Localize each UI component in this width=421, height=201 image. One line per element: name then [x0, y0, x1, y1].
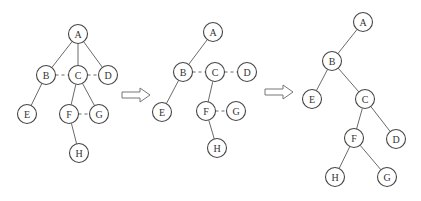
original-tree-edge-C-G — [83, 83, 95, 105]
node-label: G — [383, 172, 390, 183]
original-tree-edge-F-H — [71, 123, 76, 144]
binary-tree-node-A: A — [354, 13, 373, 32]
node-label: E — [159, 107, 165, 118]
binary-tree-edge-F-H — [339, 147, 350, 169]
binary-tree-node-E: E — [303, 90, 322, 109]
node-label: E — [24, 109, 30, 120]
node-label: C — [362, 94, 369, 105]
nodes-layer: ABCDEFGHABCDEFGHABCDEFGH — [18, 13, 406, 187]
node-label: F — [203, 106, 209, 117]
binary-tree-node-H: H — [326, 168, 345, 187]
intermediate-tree-edge-F-H — [209, 120, 215, 139]
intermediate-tree-node-F: F — [197, 102, 216, 121]
intermediate-tree-edge-B-E — [166, 80, 178, 103]
original-tree-edge-C-F — [71, 84, 76, 104]
original-tree-edge-B-E — [31, 84, 42, 106]
node-label: A — [359, 17, 367, 28]
tree-conversion-diagram: ABCDEFGHABCDEFGHABCDEFGH — [0, 0, 421, 201]
node-label: G — [232, 106, 239, 117]
node-label: B — [329, 56, 336, 67]
node-label: D — [392, 134, 399, 145]
binary-tree-edge-C-F — [357, 108, 363, 129]
intermediate-tree-node-A: A — [204, 23, 223, 42]
arrows-layer — [122, 85, 293, 102]
intermediate-tree-edge-A-B — [189, 40, 208, 65]
original-tree-edge-A-B — [52, 41, 72, 67]
intermediate-tree-node-H: H — [208, 139, 227, 158]
node-label: D — [243, 67, 250, 78]
node-label: H — [213, 143, 220, 154]
binary-tree-node-D: D — [387, 130, 406, 149]
node-label: C — [212, 67, 219, 78]
node-label: D — [104, 70, 111, 81]
node-label: F — [351, 133, 357, 144]
binary-tree-edge-B-C — [338, 68, 359, 92]
node-label: A — [74, 29, 82, 40]
node-label: H — [331, 172, 338, 183]
original-tree-node-A: A — [69, 25, 88, 44]
original-tree-node-G: G — [90, 105, 109, 124]
binary-tree-node-G: G — [378, 168, 397, 187]
original-tree-node-E: E — [18, 105, 37, 124]
binary-tree-edge-F-G — [360, 145, 381, 169]
original-tree-node-D: D — [99, 66, 118, 85]
intermediate-tree-node-G: G — [227, 102, 246, 121]
node-label: E — [309, 94, 315, 105]
node-label: B — [180, 67, 187, 78]
hollow-right-arrow-icon — [122, 88, 150, 102]
node-label: F — [66, 109, 72, 120]
intermediate-tree-edge-C-F — [208, 81, 213, 101]
binary-tree-edge-C-D — [371, 107, 390, 132]
intermediate-tree-node-C: C — [206, 63, 225, 82]
intermediate-tree-node-E: E — [153, 103, 172, 122]
original-tree-node-H: H — [70, 144, 89, 163]
binary-tree-edge-A-B — [338, 29, 357, 53]
binary-tree-edge-B-E — [316, 69, 327, 90]
node-label: G — [95, 109, 102, 120]
original-tree-edge-A-D — [84, 42, 103, 68]
node-label: H — [75, 148, 82, 159]
node-label: C — [75, 70, 82, 81]
intermediate-tree-node-D: D — [238, 63, 257, 82]
node-label: B — [43, 70, 50, 81]
binary-tree-node-F: F — [345, 129, 364, 148]
intermediate-tree-node-B: B — [174, 63, 193, 82]
binary-tree-node-C: C — [356, 90, 375, 109]
original-tree-node-F: F — [60, 105, 79, 124]
binary-tree-node-B: B — [323, 52, 342, 71]
hollow-right-arrow-icon — [265, 85, 293, 99]
original-tree-node-C: C — [69, 66, 88, 85]
node-label: A — [209, 27, 217, 38]
original-tree-node-B: B — [37, 66, 56, 85]
